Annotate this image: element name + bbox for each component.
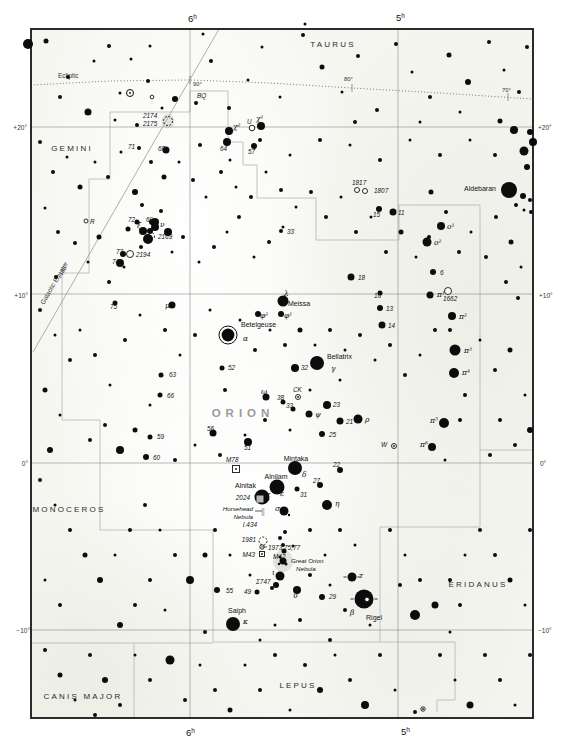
star — [503, 69, 506, 72]
star — [328, 328, 332, 332]
star-label: Alnilam — [265, 473, 288, 480]
star — [44, 207, 47, 210]
dec-label-right: +10° — [539, 292, 553, 299]
dec-label-left: +10° — [14, 292, 28, 299]
star — [134, 654, 137, 657]
star — [483, 653, 487, 657]
star — [279, 188, 283, 192]
star — [85, 109, 92, 116]
star — [139, 314, 142, 317]
star — [162, 175, 167, 180]
star — [289, 709, 292, 712]
star — [94, 161, 97, 164]
star — [146, 79, 150, 83]
star — [520, 266, 523, 269]
star — [172, 96, 178, 102]
star — [68, 528, 72, 532]
star-label: ρ — [364, 415, 370, 424]
star — [291, 364, 299, 372]
star-label: 29 — [328, 593, 337, 600]
star-label: R — [90, 218, 95, 225]
star — [349, 144, 352, 147]
star — [415, 256, 418, 259]
star — [109, 384, 112, 387]
star — [88, 438, 92, 442]
star — [525, 45, 529, 49]
star — [79, 329, 82, 332]
star-label: 66 — [167, 392, 175, 399]
star — [438, 153, 442, 157]
star — [116, 446, 124, 454]
star — [214, 587, 220, 593]
star-label: 15 — [373, 211, 381, 218]
star — [356, 54, 360, 58]
star — [123, 266, 126, 269]
star — [354, 544, 357, 547]
star — [133, 603, 137, 607]
star — [199, 664, 202, 667]
star — [209, 309, 212, 312]
star — [159, 373, 164, 378]
constellation-boundary — [380, 642, 455, 712]
star-label: ε — [280, 489, 284, 498]
star — [319, 431, 325, 437]
star-label: χ¹ — [255, 114, 264, 123]
star — [419, 121, 422, 124]
star-label: 6 — [440, 269, 444, 276]
star — [498, 418, 502, 422]
star — [209, 59, 213, 63]
star-label: 55 — [226, 587, 234, 594]
star — [148, 578, 152, 582]
star — [222, 329, 235, 342]
star — [450, 345, 461, 356]
variable-star — [445, 288, 452, 295]
star — [314, 344, 317, 347]
constellation-name: CANIS MAJOR — [44, 692, 123, 701]
star — [437, 222, 445, 230]
star — [249, 574, 252, 577]
star — [235, 186, 238, 189]
star — [237, 215, 241, 219]
star — [458, 418, 462, 422]
star-label: Σ747 — [255, 578, 271, 585]
star — [58, 603, 62, 607]
star-label: Mintaka — [284, 455, 309, 462]
star-label: 75 — [110, 303, 118, 310]
star-label: CK — [293, 386, 303, 393]
star — [343, 608, 347, 612]
star — [337, 418, 344, 425]
star — [87, 261, 90, 264]
star-label: 1817 — [352, 179, 367, 186]
star — [529, 138, 537, 146]
star — [488, 453, 492, 457]
star — [179, 354, 182, 357]
star — [23, 39, 33, 49]
star — [308, 573, 312, 577]
bright-nebula — [257, 496, 264, 503]
star-label: φ¹ — [284, 311, 292, 320]
constellation-name: ORION — [212, 407, 275, 419]
star — [114, 554, 117, 557]
star — [220, 366, 225, 371]
star — [173, 458, 177, 462]
star — [378, 653, 382, 657]
star — [484, 255, 488, 259]
star — [493, 368, 497, 372]
star — [54, 275, 58, 279]
star — [244, 664, 247, 667]
star-label: τ — [359, 571, 364, 580]
open-cluster — [259, 537, 267, 545]
star — [148, 435, 153, 440]
star — [135, 123, 139, 127]
star-label: Nebula — [233, 513, 253, 520]
star-label: 33 — [287, 228, 295, 235]
star — [528, 198, 532, 202]
star-label: 38 — [277, 394, 285, 401]
star — [58, 673, 63, 678]
star — [38, 140, 42, 144]
star — [517, 90, 521, 94]
star — [459, 111, 462, 114]
star — [66, 75, 70, 79]
star-label: 73 — [116, 248, 124, 255]
star — [529, 210, 533, 214]
